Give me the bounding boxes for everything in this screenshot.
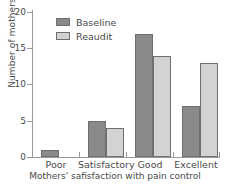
y-tick-label-5: 5 [6,117,26,126]
legend-item-baseline: Baseline [56,16,116,28]
bar-chart: Number of mothers 20 15 10 5 0 [0,0,230,185]
y-tick-mark-15 [27,48,32,49]
legend-swatch-baseline [56,18,70,26]
bar-baseline-excellent [182,106,200,157]
bar-baseline-poor [41,150,59,157]
x-tick-label-satisfactory: Satisfactory [78,159,128,170]
bar-baseline-good [135,34,153,157]
y-tick-mark-10 [27,84,32,85]
chart-legend: Baseline Reaudit [56,16,116,44]
bar-reaudit-satisfactory [106,128,124,157]
y-tick-label-10: 10 [6,80,26,89]
x-tick-label-good: Good [127,159,173,170]
legend-label-reaudit: Reaudit [76,31,112,42]
y-tick-label-15: 15 [6,44,26,53]
legend-item-reaudit: Reaudit [56,30,116,42]
bar-baseline-satisfactory [88,121,106,157]
x-tick-label-excellent: Excellent [172,159,220,170]
y-tick-label-0: 0 [6,153,26,162]
bar-reaudit-good [153,56,171,158]
x-axis-title: Mothers' safisfaction with pain control [0,171,230,181]
y-tick-mark-5 [27,121,32,122]
y-axis-tick-labels: 20 15 10 5 0 [6,0,26,185]
legend-swatch-reaudit [56,32,70,40]
bar-reaudit-excellent [200,63,218,157]
y-tick-mark-0 [27,157,32,158]
y-tick-label-20: 20 [6,8,26,17]
legend-label-baseline: Baseline [76,17,116,28]
x-tick-label-poor: Poor [33,159,79,170]
x-axis-line [32,157,220,158]
y-tick-mark-20 [27,12,32,13]
